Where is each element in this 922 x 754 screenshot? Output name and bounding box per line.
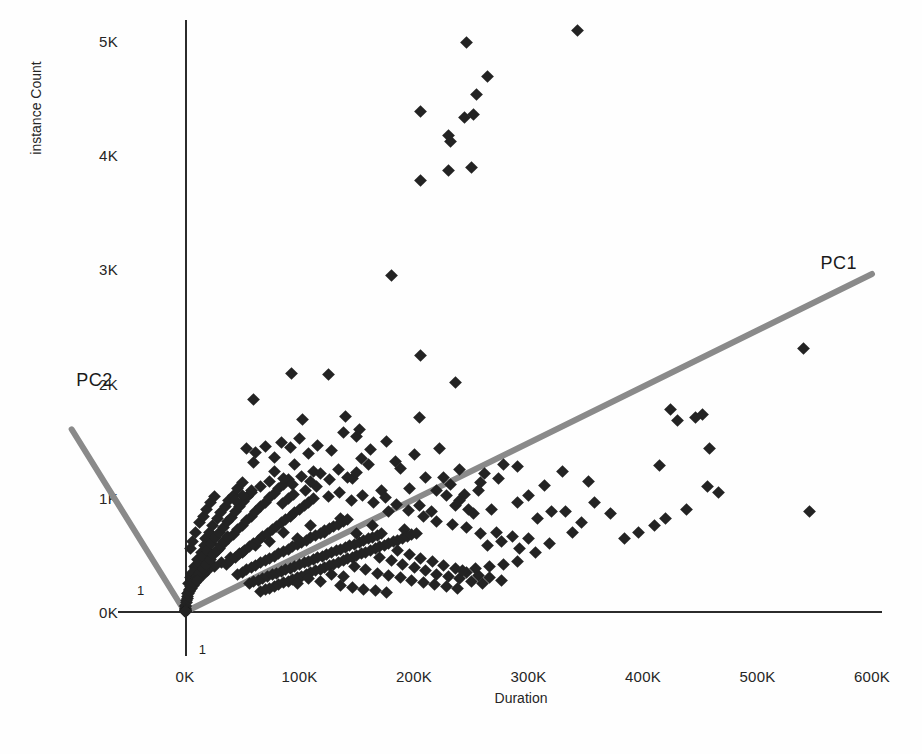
data-point-marker [268, 451, 281, 464]
data-point-marker [589, 496, 602, 509]
data-point-marker [431, 515, 444, 528]
pc1-vector-label: PC1 [820, 253, 857, 274]
data-point-marker [803, 505, 816, 518]
data-point-marker [414, 174, 427, 187]
data-point-marker [538, 479, 551, 492]
data-point-marker [474, 527, 487, 540]
data-point-marker [671, 414, 684, 427]
data-point-marker [394, 571, 407, 584]
data-point-marker [522, 533, 535, 546]
data-point-marker [492, 472, 505, 485]
data-point-marker [559, 505, 572, 518]
data-point-marker [413, 411, 426, 424]
data-point-marker [289, 458, 302, 471]
y-unit-tick: 1 [137, 583, 144, 598]
data-point-marker [460, 36, 473, 49]
data-point-marker [497, 558, 510, 571]
x-unit-tick: 1 [199, 642, 206, 657]
data-point-marker [582, 475, 595, 488]
data-point-marker [531, 512, 544, 525]
data-point-marker [371, 567, 384, 580]
data-point-marker [322, 368, 335, 381]
data-point-marker [485, 503, 498, 516]
data-point-marker [346, 581, 359, 594]
scatter-plot-chart: instance Count Duration 0K1K2K3K4K5K 0K1… [0, 0, 922, 754]
data-point-marker [556, 465, 569, 478]
data-point-marker [483, 560, 496, 573]
data-point-marker [360, 563, 373, 576]
data-point-marker [247, 393, 260, 406]
data-point-marker [471, 88, 484, 101]
data-point-marker [364, 443, 377, 456]
data-point-marker [632, 526, 645, 539]
data-point-marker [405, 574, 418, 587]
data-point-marker [337, 426, 350, 439]
data-point-layer [0, 0, 922, 754]
data-point-marker [701, 480, 714, 493]
data-point-marker [453, 463, 466, 476]
data-point-marker [414, 349, 427, 362]
data-point-marker [605, 507, 618, 520]
data-point-marker [497, 458, 510, 471]
data-point-marker [460, 521, 473, 534]
data-point-marker [396, 558, 409, 571]
data-point-marker [495, 574, 508, 587]
data-point-marker [653, 459, 666, 472]
data-point-marker [447, 518, 460, 531]
data-point-marker [419, 565, 432, 578]
data-point-marker [543, 537, 556, 550]
data-point-marker [481, 70, 494, 83]
data-point-marker [419, 471, 432, 484]
data-point-marker [297, 413, 310, 426]
data-point-marker [339, 410, 352, 423]
data-point-marker [513, 542, 526, 555]
data-point-marker [712, 486, 725, 499]
data-point-marker [664, 403, 677, 416]
data-point-marker [648, 519, 661, 532]
data-point-marker [465, 161, 478, 174]
data-point-marker [311, 439, 324, 452]
data-point-marker [333, 486, 346, 499]
data-point-marker [571, 24, 584, 37]
data-point-marker [332, 463, 345, 476]
data-point-marker [433, 442, 446, 455]
data-point-marker [325, 445, 338, 458]
data-point-marker [428, 578, 441, 591]
data-point-marker [385, 269, 398, 282]
data-point-marker [414, 105, 427, 118]
data-point-marker [408, 448, 421, 461]
data-point-marker [511, 461, 524, 474]
data-point-marker [660, 512, 673, 525]
data-point-marker [449, 376, 462, 389]
data-point-marker [618, 533, 631, 546]
data-point-marker [511, 496, 524, 509]
data-point-marker [403, 549, 416, 562]
data-point-marker [403, 482, 416, 495]
data-point-marker [417, 576, 430, 589]
data-point-marker [368, 496, 381, 509]
data-point-marker [575, 517, 588, 530]
data-point-marker [703, 442, 716, 455]
data-point-marker [680, 503, 693, 516]
data-point-marker [511, 555, 524, 568]
data-point-marker [334, 579, 347, 592]
data-point-marker [442, 164, 455, 177]
data-point-marker [451, 582, 464, 595]
data-point-marker [522, 489, 535, 502]
data-point-marker [357, 583, 370, 596]
data-point-marker [440, 580, 453, 593]
data-point-marker [293, 432, 306, 445]
data-point-marker [302, 447, 315, 460]
data-point-marker [797, 342, 810, 355]
data-point-marker [385, 554, 398, 567]
data-point-marker [285, 367, 298, 380]
data-point-marker [382, 569, 395, 582]
data-point-marker [481, 539, 494, 552]
data-point-marker [380, 586, 393, 599]
data-point-marker [529, 546, 542, 559]
data-point-marker [369, 584, 382, 597]
data-point-marker [545, 505, 558, 518]
pc2-vector-label: PC2 [76, 370, 113, 391]
data-point-marker [380, 435, 393, 448]
data-point-marker [566, 526, 579, 539]
